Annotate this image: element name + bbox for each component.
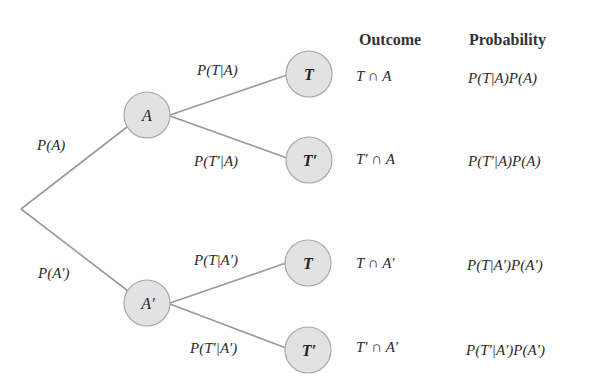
probability-row-2: P(T′|A)P(A) [468, 154, 540, 169]
probability-row-4: P(T′|A′)P(A′) [466, 343, 545, 358]
branch-label-p-t-given-a-prime: P(T|A′) [194, 253, 238, 268]
edge-A-T [170, 75, 287, 115]
probability-row-1: P(T|A)P(A) [468, 71, 537, 86]
node-A-label: A [141, 107, 152, 124]
branch-label-p-a-prime: P(A′) [38, 266, 70, 281]
outcome-row-4: T′ ∩ A′ [356, 340, 398, 355]
branch-label-p-t-given-a: P(T|A) [197, 63, 238, 78]
edge-A-T-prime [170, 116, 287, 158]
outcome-row-1: T ∩ A [356, 69, 391, 84]
tree-diagram: A A′ T T′ T T′ [0, 0, 593, 382]
node-T-label-2: T [303, 255, 314, 272]
branch-label-p-a: P(A) [37, 138, 65, 153]
outcome-header: Outcome [359, 32, 421, 48]
branch-label-p-t-prime-given-a-prime: P(T′|A′) [190, 341, 237, 356]
probability-header: Probability [469, 32, 546, 48]
edge-A-prime-T [170, 263, 286, 303]
node-T-label: T [304, 66, 315, 83]
node-T-prime-label: T′ [303, 152, 317, 169]
node-T-prime-label-2: T′ [302, 342, 316, 359]
branch-label-p-t-prime-given-a: P(T′|A) [194, 154, 238, 169]
tree-nodes [124, 51, 332, 373]
node-A-prime-label: A′ [140, 295, 155, 312]
probability-row-3: P(T|A′)P(A′) [467, 258, 543, 273]
outcome-row-3: T ∩ A′ [356, 256, 395, 271]
outcome-row-2: T′ ∩ A [356, 152, 395, 167]
